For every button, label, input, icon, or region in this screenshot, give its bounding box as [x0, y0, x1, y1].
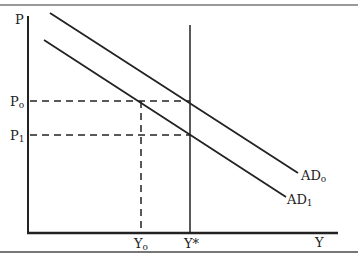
p0-label: Po [10, 95, 24, 110]
ad0-label: ADo [301, 169, 326, 184]
x-axis-label: Y [315, 236, 324, 249]
p1-label: P1 [10, 129, 24, 144]
ad0-curve [50, 13, 298, 173]
ad1-label: AD1 [287, 193, 313, 208]
y-star-label: Y* [184, 237, 199, 250]
ad1-curve [44, 40, 286, 197]
ad-diagram [0, 0, 358, 256]
y-axis-label: P [15, 13, 24, 26]
y0-label: Yo [134, 237, 148, 252]
